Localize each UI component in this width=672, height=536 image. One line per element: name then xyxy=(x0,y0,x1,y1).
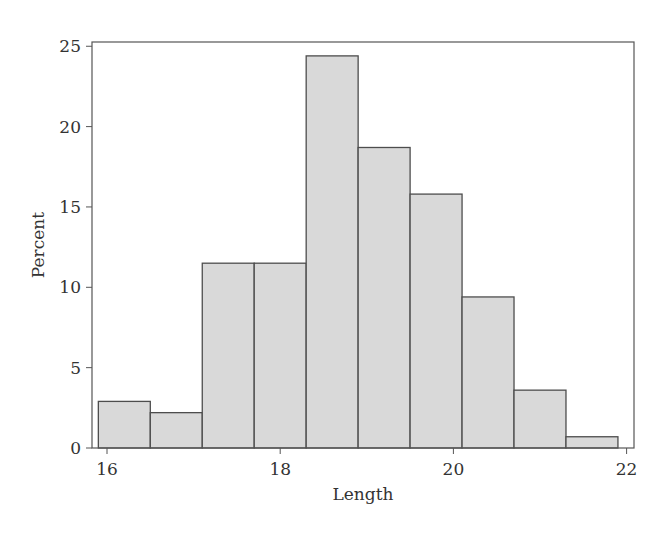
y-tick-label: 5 xyxy=(70,358,81,378)
histogram-bar xyxy=(566,437,618,448)
y-tick-label: 20 xyxy=(59,117,81,137)
y-tick-label: 25 xyxy=(59,36,81,56)
histogram-bars xyxy=(98,56,618,448)
histogram-bar xyxy=(358,147,410,448)
y-tick-label: 10 xyxy=(59,277,81,297)
x-axis-label: Length xyxy=(333,484,394,504)
y-tick-label: 0 xyxy=(70,438,81,458)
histogram-bar xyxy=(98,401,150,448)
histogram-bar xyxy=(254,263,306,448)
x-tick-label: 22 xyxy=(616,459,638,479)
histogram-chart: 0510152025 16182022 Length Percent xyxy=(0,0,672,536)
x-tick-label: 20 xyxy=(443,459,465,479)
x-axis-ticks: 16182022 xyxy=(96,448,637,479)
y-tick-label: 15 xyxy=(59,197,81,217)
histogram-bar xyxy=(514,390,566,448)
x-tick-label: 18 xyxy=(269,459,291,479)
histogram-bar xyxy=(306,56,358,448)
y-axis-label: Percent xyxy=(28,212,48,278)
histogram-bar xyxy=(150,413,202,448)
histogram-bar xyxy=(462,297,514,448)
histogram-bar xyxy=(410,194,462,448)
histogram-bar xyxy=(202,263,254,448)
y-axis-ticks: 0510152025 xyxy=(59,36,92,458)
x-tick-label: 16 xyxy=(96,459,118,479)
